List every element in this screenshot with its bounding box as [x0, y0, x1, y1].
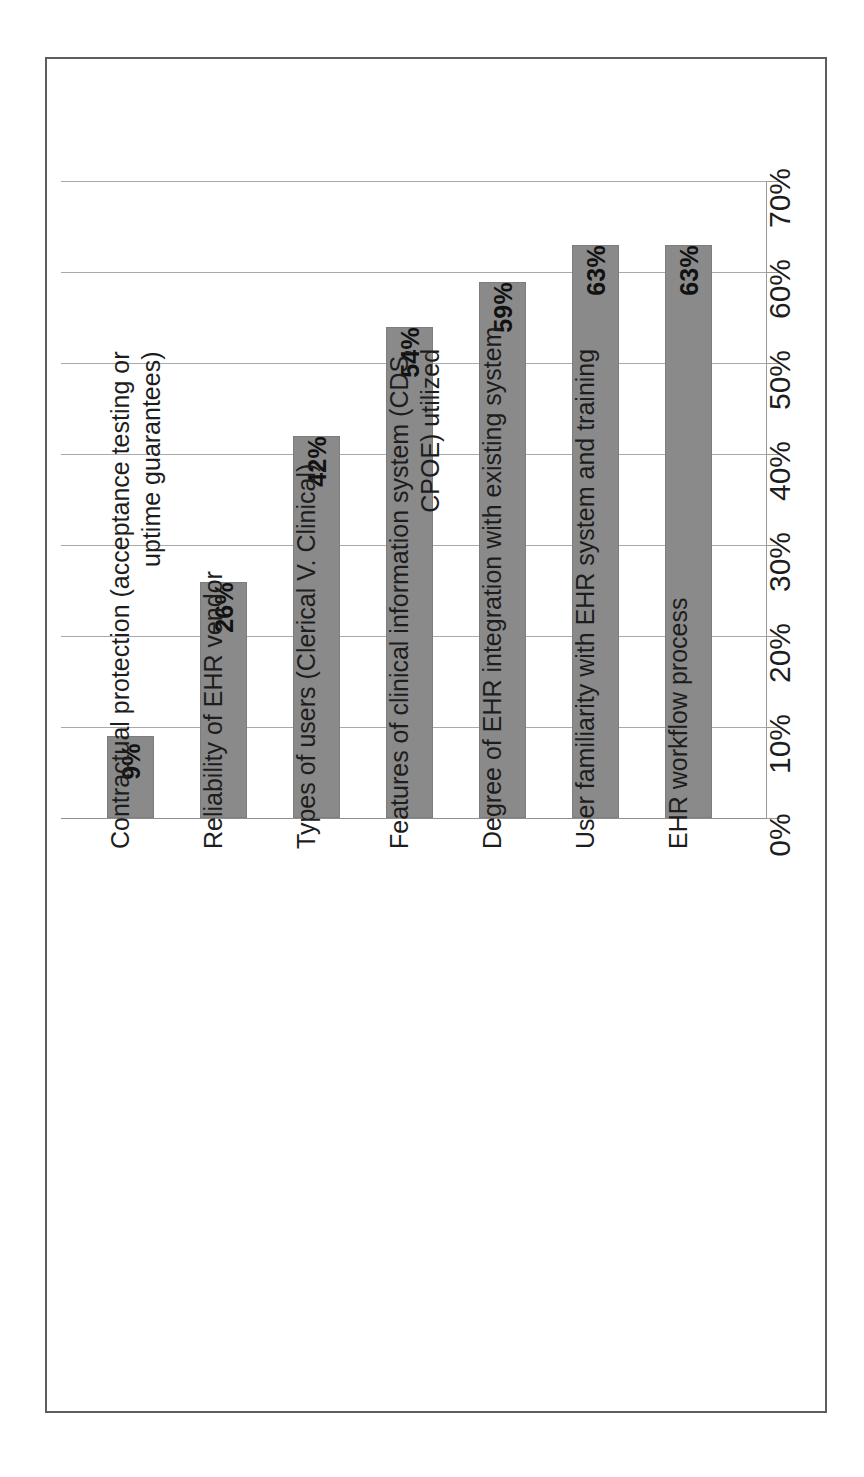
- gridline-60: [61, 272, 766, 273]
- category-label-4: Degree of EHR integration with existing …: [477, 327, 508, 849]
- category-label-3: Features of clinical information system …: [384, 349, 445, 849]
- tick-label-0: 0%: [763, 813, 797, 856]
- chart-frame: 9% 26% 42% 54% 59% 63% 63% 0% 10% 20% 30…: [45, 57, 827, 1413]
- category-label-3-line-0: Features of clinical information system …: [384, 349, 415, 849]
- category-label-0-line-1: uptime guarantees): [136, 352, 167, 850]
- tick-label-40: 40%: [763, 441, 797, 501]
- bar-value-label-6: 63%: [674, 245, 703, 296]
- category-label-1: Reliability of EHR vendor: [198, 571, 229, 849]
- category-label-0: Contractual protection (acceptance testi…: [105, 352, 166, 850]
- tick-label-30: 30%: [763, 532, 797, 592]
- category-label-1-line-0: Reliability of EHR vendor: [198, 571, 229, 849]
- plot-area: 9% 26% 42% 54% 59% 63% 63% 0% 10% 20% 30…: [47, 59, 829, 1415]
- category-label-6: EHR workflow process: [663, 598, 694, 849]
- category-label-0-line-0: Contractual protection (acceptance testi…: [105, 352, 136, 850]
- bar-value-label-5: 63%: [581, 245, 610, 296]
- category-label-4-line-0: Degree of EHR integration with existing …: [477, 327, 508, 849]
- category-label-2-line-0: Types of users (Clerical V. Clinical): [291, 464, 322, 849]
- tick-label-60: 60%: [763, 259, 797, 319]
- tick-label-70: 70%: [763, 168, 797, 228]
- category-label-3-line-1: CPOE) utilized: [415, 349, 446, 849]
- bar-value-label-4: 59%: [488, 282, 517, 333]
- category-label-2: Types of users (Clerical V. Clinical): [291, 464, 322, 849]
- tick-label-20: 20%: [763, 623, 797, 683]
- category-label-6-line-0: EHR workflow process: [663, 598, 694, 849]
- tick-label-50: 50%: [763, 350, 797, 410]
- gridline-70: [61, 181, 766, 182]
- tick-label-10: 10%: [763, 714, 797, 774]
- category-label-5-line-0: User familiarity with EHR system and tra…: [570, 349, 601, 849]
- category-label-5: User familiarity with EHR system and tra…: [570, 349, 601, 849]
